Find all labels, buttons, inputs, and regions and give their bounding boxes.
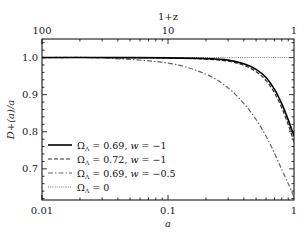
y-tick-label: 1.0 [22,52,38,63]
x-tick-label: 1 [291,205,297,216]
top-x-tick-label: 1 [291,25,297,36]
x-tick-label: 0.1 [160,205,176,216]
series-line-solid [42,58,294,137]
legend-item-label: ΩΛ = 0.69, w = −0.5 [77,168,176,180]
top-x-axis-label: 1+z [158,11,178,22]
x-axis-label: a [165,218,171,229]
y-axis-label: D+(a)/a [5,100,16,141]
y-tick-label: 0.9 [22,89,38,100]
legend-item-label: ΩΛ = 0.69, w = −1 [77,140,167,152]
legend-item-label: ΩΛ = 0.72, w = −1 [77,154,167,166]
top-x-tick-label: 100 [32,25,51,36]
chart: 0.010.111001011.00.90.80.7a1+zD+(a)/aΩΛ … [0,0,305,232]
y-tick-label: 0.7 [22,163,38,174]
legend: ΩΛ = 0.69, w = −1ΩΛ = 0.72, w = −1ΩΛ = 0… [48,140,176,194]
top-x-tick-label: 10 [162,25,175,36]
y-tick-label: 0.8 [22,126,38,137]
legend-item-label: ΩΛ = 0 [77,182,109,194]
x-tick-label: 0.01 [31,205,53,216]
